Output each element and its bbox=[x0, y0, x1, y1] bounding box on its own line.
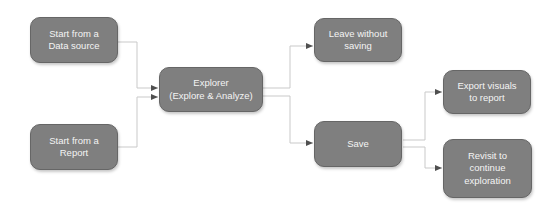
node-save: Save bbox=[314, 121, 402, 167]
connector-explorer-to-save bbox=[263, 96, 313, 143]
node-start-from-report: Start from a Report bbox=[30, 124, 118, 170]
node-leave-without-saving: Leave without saving bbox=[314, 18, 402, 62]
connector-save-to-export bbox=[403, 92, 442, 140]
flowchart-canvas: Start from a Data source Start from a Re… bbox=[0, 0, 559, 210]
connector-datasource-to-explorer bbox=[118, 42, 158, 88]
connector-explorer-to-leave bbox=[263, 46, 313, 88]
node-start-from-data-source: Start from a Data source bbox=[30, 17, 118, 63]
connector-save-to-revisit bbox=[403, 147, 442, 168]
node-export-visuals-to-report: Export visuals to report bbox=[443, 70, 531, 114]
connector-report-to-explorer bbox=[118, 97, 158, 147]
node-explorer: Explorer (Explore & Analyze) bbox=[159, 67, 263, 112]
node-revisit-to-continue-exploration: Revisit to continue exploration bbox=[443, 139, 532, 198]
